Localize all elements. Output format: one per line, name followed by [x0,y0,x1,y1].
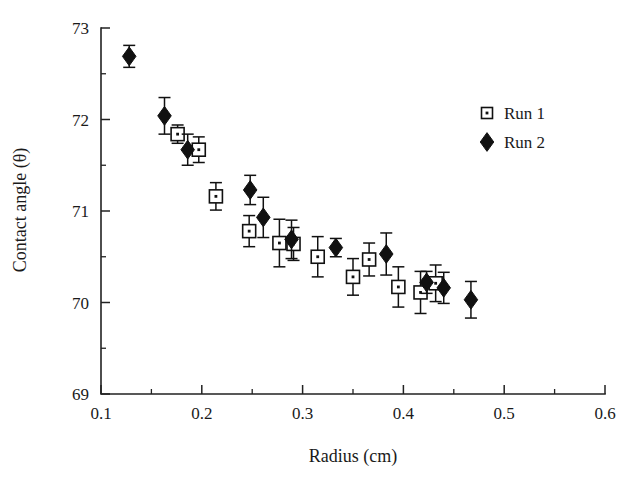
legend-label: Run 2 [504,133,545,152]
x-axis-label: Radius (cm) [309,446,397,467]
data-point [380,233,394,275]
data-point [243,216,256,247]
data-point [347,259,360,296]
marker-filled-diamond [480,133,494,152]
marker-filled-diamond [243,181,257,200]
data-point [273,219,286,267]
marker-center-dot [397,286,400,289]
data-series [122,45,477,318]
axis-spines [101,28,605,394]
x-tick-label: 0.5 [494,404,515,423]
marker-center-dot [215,195,218,198]
marker-center-dot [368,258,371,261]
axes [101,28,605,394]
y-tick-label: 71 [72,202,89,221]
marker-center-dot [197,148,200,151]
marker-filled-diamond [122,47,136,66]
x-tick-label: 0.3 [292,404,313,423]
x-tick-label: 0.4 [393,404,415,423]
data-point [363,243,376,276]
y-tick-label: 70 [72,294,89,313]
data-point [392,267,405,307]
chart-legend: Run 1Run 2 [480,104,545,152]
x-tick-label: 0.6 [594,404,615,423]
marker-filled-diamond [329,238,343,257]
marker-center-dot [278,242,281,245]
x-tick-label: 0.2 [191,404,212,423]
y-tick-label: 69 [72,385,89,404]
data-point [329,238,343,257]
axis-ticks [101,28,605,394]
data-point [311,237,324,277]
data-point [257,197,271,237]
data-point [209,183,222,210]
data-point [464,281,478,318]
marker-filled-diamond [464,290,478,309]
data-point [158,98,172,135]
legend-item-run-1[interactable]: Run 1 [482,104,546,123]
y-tick-label: 73 [72,19,89,38]
marker-center-dot [316,255,319,258]
data-point [122,45,136,67]
marker-center-dot [352,275,355,278]
series-run-1 [171,125,442,313]
marker-filled-diamond [257,208,271,227]
marker-center-dot [486,112,489,115]
x-tick-label: 0.1 [90,404,111,423]
marker-center-dot [434,282,437,285]
y-axis-label: Contact angle (θ) [10,148,31,273]
x-tick-labels: 0.10.20.30.40.50.6 [90,404,615,423]
data-point [285,220,299,258]
marker-filled-diamond [158,106,172,125]
marker-center-dot [176,133,179,136]
legend-item-run-2[interactable]: Run 2 [480,133,545,152]
chart-figure: 0.10.20.30.40.50.6 6970717273 Run 1Run 2… [0,0,643,483]
y-tick-labels: 6970717273 [72,19,89,404]
legend-label: Run 1 [504,104,545,123]
series-run-2 [122,45,477,318]
scatter-plot: 0.10.20.30.40.50.6 6970717273 Run 1Run 2… [0,0,643,483]
marker-center-dot [248,230,251,233]
y-tick-label: 72 [72,111,89,130]
data-point [243,175,257,204]
marker-filled-diamond [380,245,394,264]
